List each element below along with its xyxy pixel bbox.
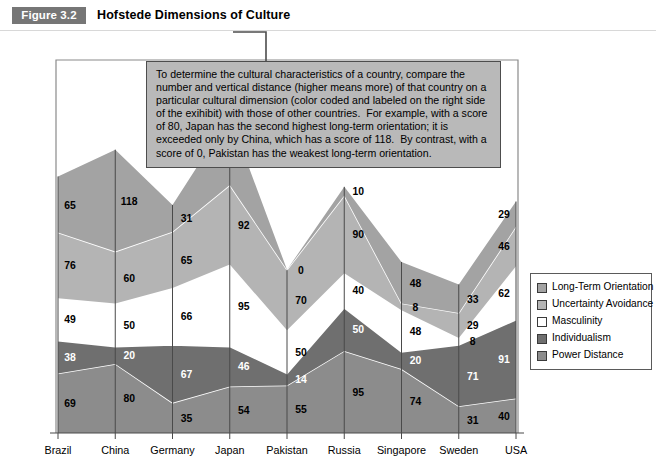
legend-swatch-individualism <box>537 334 547 344</box>
data-label: 66 <box>181 311 193 322</box>
data-label: 50 <box>295 346 307 357</box>
data-label: 20 <box>123 350 135 361</box>
legend-label: Power Distance <box>552 350 623 360</box>
data-label: 71 <box>467 370 479 381</box>
data-label: 95 <box>352 386 364 397</box>
legend-item[interactable]: Power Distance <box>537 347 647 364</box>
x-axis-label-russia: Russia <box>328 444 361 456</box>
data-label: 33 <box>467 293 479 304</box>
data-label: 14 <box>295 374 307 385</box>
data-label: 35 <box>181 412 193 423</box>
data-label: 10 <box>352 186 364 197</box>
x-axis-label-sweden: Sweden <box>439 444 478 456</box>
data-label: 48 <box>410 277 422 288</box>
legend-label: Individualism <box>552 333 611 343</box>
legend-label: Long-Term Orientation <box>552 282 653 292</box>
data-label: 80 <box>123 393 135 404</box>
legend-swatch-uncertainty-avoidance <box>537 300 547 310</box>
data-label: 20 <box>410 355 422 366</box>
chart-container: 6980355455957431403820674614502071914950… <box>0 30 656 475</box>
data-label: 65 <box>64 199 76 210</box>
chart-axis-ticks <box>58 433 516 439</box>
data-label: 91 <box>498 354 510 365</box>
data-label: 40 <box>352 285 364 296</box>
data-label: 29 <box>498 209 510 220</box>
data-label: 74 <box>410 396 422 407</box>
data-label: 62 <box>498 288 510 299</box>
data-label: 67 <box>181 368 193 379</box>
data-label: 90 <box>352 229 364 240</box>
data-label: 40 <box>498 410 510 421</box>
data-label: 50 <box>352 324 364 335</box>
data-label: 69 <box>64 398 76 409</box>
x-axis-label-japan: Japan <box>215 444 244 456</box>
data-label: 60 <box>123 272 135 283</box>
x-axis-label-germany: Germany <box>150 444 194 456</box>
callout-text: To determine the cultural characteristic… <box>156 68 491 160</box>
data-label: 76 <box>64 260 76 271</box>
chart-legend: Long-Term Orientation Uncertainty Avoida… <box>530 273 652 370</box>
legend-swatch-power-distance <box>537 351 547 361</box>
x-axis-label-singapore: Singapore <box>377 444 426 456</box>
data-label: 46 <box>238 361 250 372</box>
figure-number-badge: Figure 3.2 <box>12 7 86 24</box>
data-label: 31 <box>467 414 479 425</box>
legend-item[interactable]: Individualism <box>537 330 647 347</box>
data-label: 48 <box>410 326 422 337</box>
x-axis-label-pakistan: Pakistan <box>266 444 307 456</box>
x-axis-label-brazil: Brazil <box>45 444 72 456</box>
data-label: 8 <box>470 336 476 347</box>
x-axis-label-usa: USA <box>505 444 527 456</box>
legend-item[interactable]: Uncertainty Avoidance <box>537 296 647 313</box>
data-label: 55 <box>295 404 307 415</box>
legend-label: Uncertainty Avoidance <box>552 299 653 309</box>
data-label: 95 <box>238 300 250 311</box>
data-label: 0 <box>298 264 304 275</box>
callout-annotation: To determine the cultural characteristic… <box>146 61 501 168</box>
legend-swatch-masculinity <box>537 317 547 327</box>
data-label: 70 <box>295 294 307 305</box>
data-label: 118 <box>121 195 138 206</box>
data-label: 31 <box>181 213 193 224</box>
data-label: 46 <box>498 241 510 252</box>
data-label: 38 <box>64 351 76 362</box>
legend-item[interactable]: Long-Term Orientation <box>537 279 647 296</box>
legend-item[interactable]: Masculinity <box>537 313 647 330</box>
x-axis-label-china: China <box>101 444 129 456</box>
data-label: 49 <box>64 314 76 325</box>
legend-label: Masculinity <box>552 316 602 326</box>
data-label: 65 <box>181 254 193 265</box>
figure-header: Figure 3.2 Hofstede Dimensions of Cultur… <box>0 0 656 30</box>
legend-swatch-long-term-orientation <box>537 283 547 293</box>
page-title: Hofstede Dimensions of Culture <box>97 7 290 24</box>
data-label: 54 <box>238 404 250 415</box>
data-label: 92 <box>238 219 250 230</box>
data-label: 50 <box>123 320 135 331</box>
data-label: 8 <box>413 301 419 312</box>
data-label: 29 <box>467 320 479 331</box>
